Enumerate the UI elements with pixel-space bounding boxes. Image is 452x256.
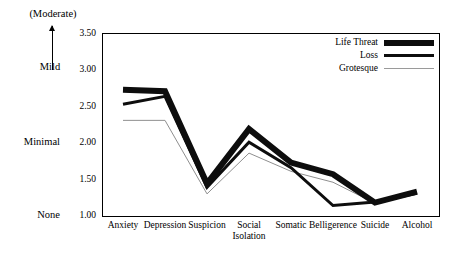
series-line-grotesque	[123, 120, 417, 203]
legend-label-loss: Loss	[360, 50, 384, 61]
chart-legend: Life Threat Loss Grotesque	[288, 36, 434, 75]
y-tick-label: 2.00	[62, 137, 96, 147]
x-tick-label: Alcohol	[402, 220, 433, 231]
legend-label-grotesque: Grotesque	[339, 63, 384, 74]
x-tick-label: Belligerence	[309, 220, 357, 231]
legend-label-life-threat: Life Threat	[335, 37, 384, 48]
x-tick-label: Suicide	[361, 220, 390, 231]
y-tick-label: 1.50	[62, 174, 96, 184]
legend-item-grotesque: Grotesque	[288, 62, 434, 75]
severity-annotation-none: None	[4, 209, 60, 220]
legend-swatch-life-threat	[384, 40, 434, 46]
x-tick-label: Somatic	[275, 220, 306, 231]
y-tick-label: 2.50	[62, 101, 96, 111]
legend-swatch-grotesque	[384, 68, 434, 69]
x-tick-label: Suspicion	[188, 220, 225, 231]
x-tick-label: Depression	[144, 220, 187, 231]
series-line-loss	[123, 96, 417, 205]
legend-swatch-loss	[384, 54, 434, 57]
x-tick-label: SocialIsolation	[232, 220, 265, 242]
symptom-profile-line-chart: (Moderate) Mild Minimal None 1.001.502.0…	[0, 0, 452, 256]
severity-annotation-moderate: (Moderate)	[8, 8, 98, 20]
series-line-life-threat	[123, 90, 417, 203]
y-tick-label: 3.50	[62, 28, 96, 38]
x-tick-label: Anxiety	[108, 220, 139, 231]
y-tick-label: 3.00	[62, 64, 96, 74]
legend-item-life-threat: Life Threat	[288, 36, 434, 49]
y-tick-label: 1.00	[62, 210, 96, 220]
legend-item-loss: Loss	[288, 49, 434, 62]
severity-annotation-minimal: Minimal	[4, 136, 60, 147]
